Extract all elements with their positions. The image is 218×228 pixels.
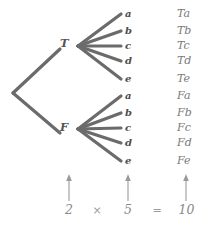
arrow-head-product: [183, 174, 189, 181]
root-branch-to-F: [13, 93, 60, 133]
outcome-Ta: Ta: [177, 8, 190, 19]
arrow-head-first-factor: [66, 174, 72, 181]
outcome-Fe: Fe: [177, 155, 191, 166]
root-branch-to-T: [13, 49, 60, 93]
root-branch-lines: [13, 49, 60, 133]
equals-sign: =: [149, 205, 165, 216]
outcome-Fc: Fc: [177, 122, 191, 133]
T-branch-to-b: [78, 31, 121, 46]
leaf-label-F-c: c: [125, 123, 131, 133]
branch-label-T: T: [60, 38, 69, 50]
leaf-label-F-b: b: [125, 108, 132, 118]
F-branch-to-a: [78, 96, 121, 129]
outcome-Tc: Tc: [177, 40, 190, 51]
leaf-label-T-d: d: [125, 56, 132, 66]
leaf-label-T-c: c: [125, 41, 131, 51]
F-branch-to-c: [78, 128, 121, 129]
outcome-Fa: Fa: [177, 90, 190, 101]
multiply-sign: ×: [89, 205, 105, 216]
outcome-Fb: Fb: [177, 107, 192, 118]
tree-diagram-canvas: T F a b c d e a b c d e Ta Tb Tc Td Te F…: [0, 0, 218, 228]
leaf-label-T-b: b: [125, 26, 132, 36]
T-fan-lines: [78, 14, 121, 79]
equation-first-factor: 2: [61, 204, 77, 217]
leaf-label-T-e: e: [125, 74, 131, 84]
equation-product: 10: [176, 204, 197, 217]
equation-second-factor: 5: [120, 204, 136, 217]
outcome-Te: Te: [177, 73, 190, 84]
T-branch-to-d: [78, 46, 121, 61]
F-branch-to-e: [78, 129, 121, 161]
T-branch-to-e: [78, 46, 121, 79]
count-arrows: [66, 174, 189, 201]
leaf-label-F-d: d: [125, 138, 132, 148]
leaf-label-F-e: e: [125, 156, 131, 166]
outcome-Fd: Fd: [177, 137, 192, 148]
F-fan-lines: [78, 96, 121, 161]
outcome-Tb: Tb: [177, 25, 191, 36]
F-branch-to-d: [78, 129, 121, 143]
arrow-head-second-factor: [125, 174, 131, 181]
branch-label-F: F: [60, 122, 68, 134]
T-branch-to-a: [78, 14, 121, 46]
leaf-label-F-a: a: [125, 91, 131, 101]
leaf-label-T-a: a: [125, 9, 131, 19]
outcome-Td: Td: [177, 55, 191, 66]
